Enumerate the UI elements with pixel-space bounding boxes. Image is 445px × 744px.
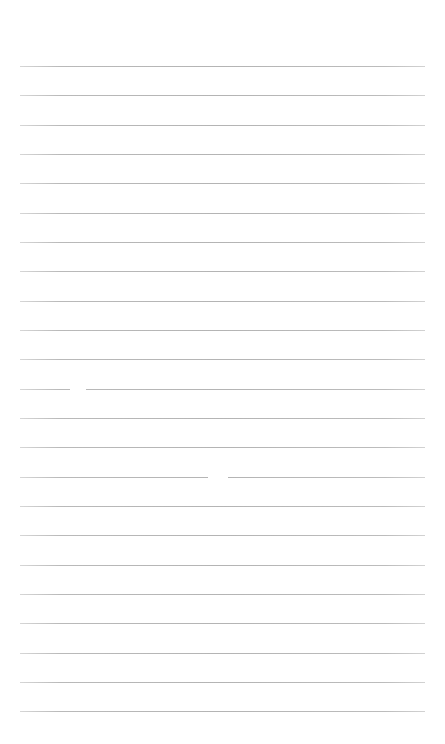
ruled-line: [20, 535, 425, 536]
ruled-line: [20, 95, 425, 96]
ruled-line: [20, 359, 425, 360]
ruled-line: [20, 66, 425, 67]
ruled-line: [20, 682, 425, 683]
ruled-line: [20, 271, 425, 272]
line-gap: [70, 388, 86, 391]
ruled-line: [20, 506, 425, 507]
ruled-line: [20, 242, 425, 243]
lined-paper-page: [0, 0, 445, 744]
ruled-line: [20, 447, 425, 448]
ruled-line: [20, 213, 425, 214]
ruled-line: [20, 623, 425, 624]
ruled-line: [20, 330, 425, 331]
ruled-line: [20, 301, 425, 302]
ruled-line: [20, 418, 425, 419]
ruled-line: [20, 653, 425, 654]
ruled-line: [20, 183, 425, 184]
line-gap: [208, 476, 228, 479]
ruled-line: [20, 125, 425, 126]
ruled-line: [20, 565, 425, 566]
ruled-line: [20, 711, 425, 712]
ruled-line: [20, 594, 425, 595]
ruled-line: [20, 154, 425, 155]
